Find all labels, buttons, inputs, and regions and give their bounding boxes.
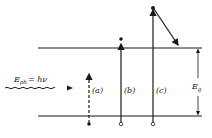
electron-dot-icon — [119, 37, 123, 41]
bandgap-label: Eg — [191, 82, 202, 93]
band-diagram: Eph= hν (a) (b) (c) Eg — [0, 0, 212, 138]
electron-dot-icon — [87, 122, 91, 126]
transition-c-label: (c) — [156, 86, 167, 95]
thermalization-arrow — [154, 9, 178, 45]
photon-energy-label: Eph= hν — [13, 75, 47, 86]
transition-a — [87, 74, 91, 126]
photon-arrow-icon — [5, 86, 73, 91]
transition-b — [119, 37, 123, 126]
transition-c — [151, 6, 178, 126]
transition-a-label: (a) — [92, 86, 103, 95]
hole-circle-icon — [151, 122, 155, 126]
transition-b-label: (b) — [124, 86, 135, 95]
hole-circle-icon — [119, 122, 123, 126]
